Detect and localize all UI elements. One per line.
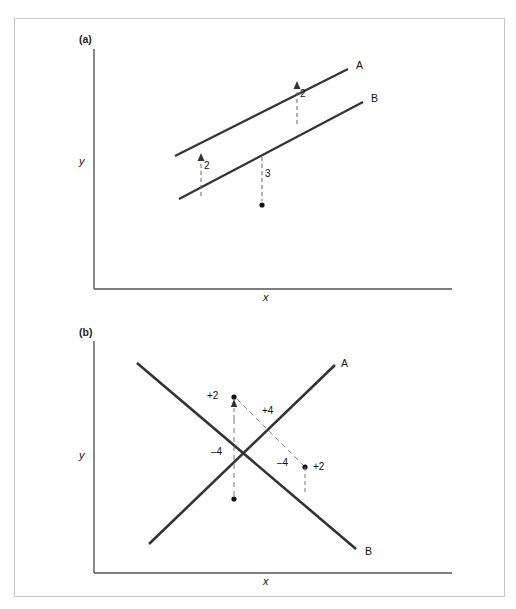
- panel-b: (b) A B +2 +4 –4 –4 +: [15, 309, 506, 598]
- panel-a-line-a-label: A: [356, 59, 363, 71]
- panel-b-plus2-left-arrowhead: [231, 399, 237, 407]
- panel-b-y-axis-label: y: [79, 449, 85, 461]
- panel-a-y-axis-label: y: [79, 155, 85, 167]
- panel-b-upper-left-point: [231, 394, 236, 399]
- panel-b-line-a-label: A: [341, 357, 348, 369]
- panel-b-line-a: [149, 365, 335, 544]
- panel-b-x-axis-label: x: [263, 575, 269, 587]
- panel-a-ann-residual: 3: [265, 168, 271, 179]
- panel-b-line-b: [137, 363, 356, 549]
- panel-b-ann-plus2-left: +2: [207, 390, 218, 401]
- panel-b-drawing: [15, 309, 506, 598]
- panel-b-ann-plus4: +4: [262, 405, 273, 416]
- panel-b-line-b-label: B: [365, 545, 372, 557]
- panel-a-x-axis-label: x: [263, 291, 269, 303]
- panel-a-line-a: [175, 69, 348, 156]
- panel-a-isolated-point: [259, 202, 264, 207]
- panel-a-line-b-label: B: [371, 92, 378, 104]
- panel-a-drawing: [15, 19, 506, 319]
- panel-a-line-b: [179, 102, 363, 199]
- panel-a-ann-gap-right: 2: [300, 88, 306, 99]
- panel-b-ann-minus4-left: –4: [211, 446, 222, 457]
- panel-b-ann-plus2-right: +2: [313, 461, 324, 472]
- figure-frame: (a) A B 2 2 3 y x (b): [14, 18, 505, 597]
- panel-b-ann-minus4-right: –4: [277, 457, 288, 468]
- panel-b-line-a-intersection-point: [231, 496, 236, 501]
- panel-a-ann-gap-left: 2: [204, 160, 210, 171]
- panel-a: (a) A B 2 2 3 y x: [15, 19, 506, 319]
